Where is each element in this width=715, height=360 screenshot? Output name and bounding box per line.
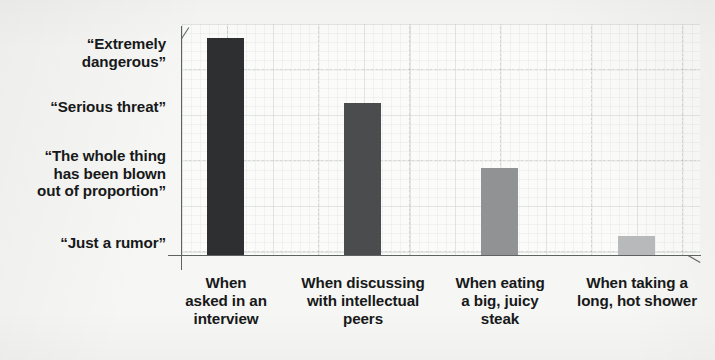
x-axis-tick-labels: When asked in an interview When discussi… bbox=[182, 274, 700, 354]
bar-interview bbox=[207, 38, 244, 256]
bar-intellectual-peers bbox=[344, 103, 381, 256]
bar-shower bbox=[618, 236, 655, 256]
y-tick-label-blown-out-of-proportion: “The whole thing has been blown out of p… bbox=[0, 147, 174, 200]
bar-chart: “Extremely dangerous” “Serious threat” “… bbox=[0, 0, 715, 360]
y-axis-tick-labels: “Extremely dangerous” “Serious threat” “… bbox=[0, 0, 174, 280]
x-tick-label-shower: When taking a long, hot shower bbox=[552, 274, 715, 310]
y-axis-line bbox=[181, 26, 182, 270]
y-tick-label-just-a-rumor: “Just a rumor” bbox=[0, 234, 174, 252]
y-tick-label-extremely-dangerous: “Extremely dangerous” bbox=[0, 35, 174, 70]
y-tick-label-serious-threat: “Serious threat” bbox=[0, 98, 174, 116]
x-axis-line bbox=[168, 255, 701, 256]
bar-steak bbox=[481, 168, 518, 256]
